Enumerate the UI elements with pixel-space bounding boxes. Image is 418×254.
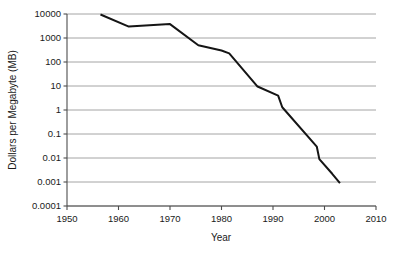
x-tick-label: 1950: [56, 213, 77, 224]
x-tick-label: 1970: [159, 213, 180, 224]
y-tick-label: 10: [50, 80, 61, 91]
x-tick-label: 1990: [262, 213, 283, 224]
y-tick-label: 1000: [40, 32, 61, 43]
chart-container: 1000010001001010.10.010.0010.0001 195019…: [0, 0, 418, 254]
x-tick-label: 1960: [108, 213, 129, 224]
y-tick-label: 0.001: [37, 176, 61, 187]
x-tick-label: 1980: [211, 213, 232, 224]
y-tick-label: 0.0001: [32, 200, 61, 211]
line-chart: 1000010001001010.10.010.0010.0001 195019…: [0, 0, 418, 254]
x-axis-title: Year: [211, 232, 232, 243]
y-tick-label: 0.01: [43, 152, 62, 163]
x-tick-label: 2010: [365, 213, 386, 224]
y-tick-label: 1: [56, 104, 61, 115]
y-axis-title: Dollars per Megabyte (MB): [7, 50, 18, 169]
y-tick-label: 100: [45, 56, 61, 67]
y-tick-label: 0.1: [48, 128, 61, 139]
x-tick-label: 2000: [314, 213, 335, 224]
y-tick-label: 10000: [35, 8, 61, 19]
